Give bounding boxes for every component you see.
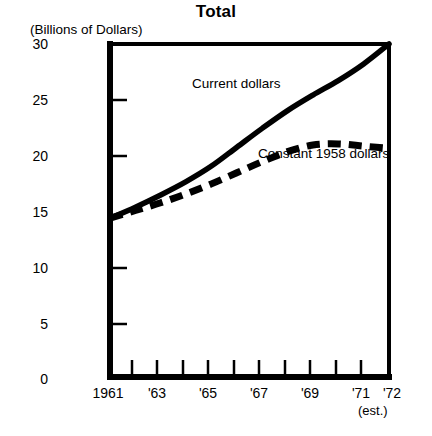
series-line-constant-dollars [110, 144, 389, 218]
plot-area [0, 0, 432, 436]
series-line-current-dollars [110, 44, 389, 218]
axis-frame [107, 41, 392, 380]
x-axis-ticks [132, 360, 361, 374]
chart-container: Total (Billions of Dollars) 30 25 20 15 … [0, 0, 432, 436]
